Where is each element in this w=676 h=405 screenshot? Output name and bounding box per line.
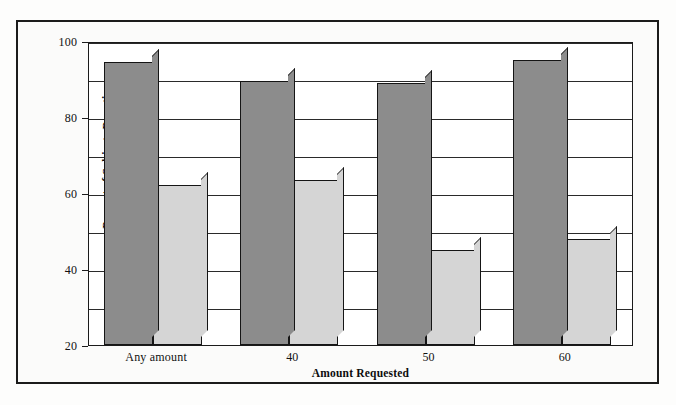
bar-series-group [89,43,632,345]
bar-3d-side [474,237,481,337]
y-tick-label: 20 [43,339,77,354]
x-tick-label: 40 [286,350,298,365]
x-axis-title: Amount Requested [88,367,633,379]
bar-money-only [289,180,338,345]
y-tick-mark [82,346,88,347]
plot-area [88,42,633,346]
x-axis-tick-labels: Any amount405060 [88,350,633,366]
bar-3d-side [610,226,617,337]
bar-petition [104,62,153,345]
bar-3d-side [201,172,208,337]
y-tick-mark [82,194,88,195]
x-tick-label: 60 [559,350,571,365]
y-tick-label: 80 [43,111,77,126]
y-tick-label: 100 [43,35,77,50]
bar-petition [513,60,562,345]
x-tick-label: Any amount [125,350,187,365]
plot-wrapper: 20406080100 Percent of Subjects Donating… [88,42,633,346]
y-tick-label: 40 [43,263,77,278]
bar-3d-side [425,70,432,337]
bar-petition [240,81,289,345]
bar-petition [377,83,426,345]
bar-money-only [562,239,611,345]
bar-money-only [426,250,475,345]
y-tick-label: 60 [43,187,77,202]
bar-3d-side [288,68,295,337]
y-tick-mark [82,270,88,271]
bar-3d-side [337,167,344,337]
bar-3d-side [561,47,568,337]
x-tick-label: 50 [422,350,434,365]
y-tick-mark [82,42,88,43]
y-tick-mark [82,118,88,119]
chart-figure: Subjects asked to sign petition two week… [0,0,676,405]
bar-3d-side [152,49,159,337]
bar-money-only [153,185,202,345]
